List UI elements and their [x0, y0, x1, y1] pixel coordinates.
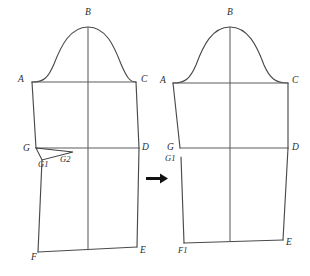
left-seam-D-E — [137, 148, 139, 247]
left-label-G2: G2 — [60, 155, 70, 164]
right-label-E: E — [286, 238, 292, 248]
right-label-G: G — [167, 143, 174, 153]
right-sleeve-figure — [173, 27, 288, 243]
right-seam-D-E — [283, 148, 288, 240]
left-label-G: G — [23, 144, 30, 154]
left-seam-C-D — [136, 82, 139, 148]
right-label-G1: G1 — [165, 154, 175, 163]
left-label-D: D — [142, 143, 149, 153]
right-label-D: D — [292, 143, 299, 153]
diagram-canvas: B A C G G1 G2 D F E B A C G G1 D F1 E — [0, 0, 310, 276]
arrow-right-icon — [146, 174, 168, 184]
left-label-E: E — [140, 246, 146, 256]
left-label-F: F — [31, 253, 37, 263]
transformation-arrow — [146, 174, 168, 184]
right-label-B: B — [227, 8, 233, 18]
left-label-A: A — [18, 75, 24, 85]
right-label-C: C — [292, 76, 298, 86]
left-label-B: B — [85, 8, 91, 18]
right-label-A: A — [160, 76, 166, 86]
left-sleeve-cap-curve — [32, 27, 136, 82]
right-label-F1: F1 — [178, 246, 187, 255]
right-hem-F1-E — [184, 240, 283, 243]
sleeve-diagram-svg — [0, 0, 310, 276]
left-seam-G1-F — [38, 160, 42, 252]
left-label-G1: G1 — [38, 160, 48, 169]
left-sleeve-figure — [32, 27, 139, 252]
left-label-C: C — [141, 75, 147, 85]
right-seam-A-G — [173, 83, 180, 148]
left-seam-A-G — [32, 82, 36, 148]
right-seam-G1-F1 — [181, 157, 184, 243]
